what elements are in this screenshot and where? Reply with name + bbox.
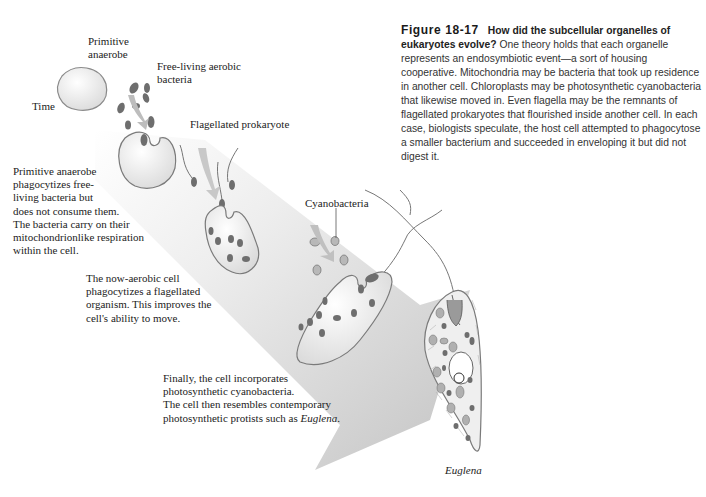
label-euglena: Euglena — [445, 464, 482, 477]
note-line: organism. This improves the — [86, 298, 211, 311]
label-line: bacteria — [157, 73, 241, 86]
label-primitive-anaerobe: Primitive anaerobe — [88, 35, 129, 61]
note-line: does not consume them. — [13, 205, 144, 218]
note-step1: Primitive anaerobe phagocytizes free- li… — [13, 165, 144, 257]
figure-number: Figure 18-17 — [401, 23, 479, 37]
note-line: The cell then resembles contemporary — [163, 398, 340, 411]
note-line: photosynthetic cyanobacteria. — [163, 385, 340, 398]
note-line: cell's ability to move. — [86, 312, 211, 325]
note-line: living bacteria but — [13, 191, 144, 204]
caption-body: One theory holds that each organelle rep… — [401, 39, 701, 162]
figure-caption: Figure 18-17 How did the subcellular org… — [401, 23, 701, 164]
note-line: within the cell. — [13, 244, 144, 257]
note-line: phagocytizes a flagellated — [86, 285, 211, 298]
label-line: anaerobe — [88, 48, 129, 61]
note-line: Finally, the cell incorporates — [163, 372, 340, 385]
note-line: phagocytizes free- — [13, 178, 144, 191]
label-line: Primitive — [88, 35, 129, 48]
note-line: The bacteria carry on their — [13, 218, 144, 231]
euglena-cell — [425, 290, 482, 451]
label-flagellated-prokaryote: Flagellated prokaryote — [190, 118, 289, 131]
note-text: . — [337, 412, 340, 424]
note-italic-term: Euglena — [301, 412, 338, 424]
label-free-living-bacteria: Free-living aerobic bacteria — [157, 60, 241, 86]
note-text: photosynthetic protists such as — [163, 412, 301, 424]
primitive-anaerobe-cell — [58, 68, 107, 111]
note-line: Primitive anaerobe — [13, 165, 144, 178]
label-cyanobacteria: Cyanobacteria — [305, 197, 369, 210]
label-time: Time — [32, 100, 55, 113]
label-line: Free-living aerobic — [157, 60, 241, 73]
note-line: mitochondrionlike respiration — [13, 231, 144, 244]
note-line: The now-aerobic cell — [86, 272, 211, 285]
note-step3: Finally, the cell incorporates photosynt… — [163, 372, 340, 425]
note-step2: The now-aerobic cell phagocytizes a flag… — [86, 272, 211, 325]
note-line: photosynthetic protists such as Euglena. — [163, 412, 340, 425]
